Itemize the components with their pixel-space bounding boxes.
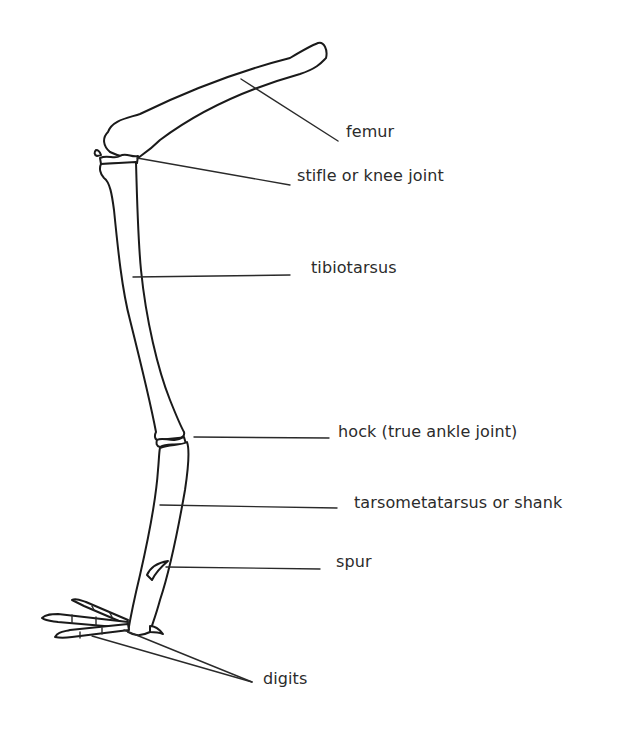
- bone-drawing: [0, 0, 624, 736]
- leader-tarsometatarsus: [160, 505, 337, 508]
- tarsometatarsus-bone: [128, 442, 188, 635]
- label-stifle: stifle or knee joint: [297, 166, 444, 185]
- tibiotarsus-bone: [100, 162, 184, 440]
- leader-digits-1: [124, 630, 252, 682]
- leader-hock: [194, 437, 329, 438]
- label-hock: hock (true ankle joint): [338, 422, 517, 441]
- leader-stifle: [137, 158, 290, 185]
- femur-condyle: [95, 150, 101, 156]
- leg-skeleton-diagram: femur stifle or knee joint tibiotarsus h…: [0, 0, 624, 736]
- label-spur: spur: [336, 552, 372, 571]
- label-femur: femur: [346, 122, 394, 141]
- leader-spur: [166, 567, 320, 569]
- hind-claw: [150, 626, 163, 634]
- leader-femur: [241, 79, 338, 141]
- femur-bone: [104, 43, 326, 158]
- label-tibiotarsus: tibiotarsus: [311, 258, 397, 277]
- label-digits: digits: [263, 669, 307, 688]
- label-tarsometatarsus: tarsometatarsus or shank: [354, 493, 562, 512]
- leader-digits-2: [92, 636, 252, 682]
- leader-tibiotarsus: [133, 275, 290, 277]
